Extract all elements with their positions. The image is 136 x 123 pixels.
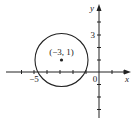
y-tick-label: 3 [91,30,96,40]
y-axis-label: y [89,3,94,13]
center-label: (−3, 1) [49,47,74,57]
origin-label: 0 [93,74,98,84]
center-point [60,58,63,61]
x-axis-label: x [124,74,129,84]
x-tick-label: −5 [29,74,39,84]
coordinate-plane: (−3, 1) −5 3 0 x y [0,0,136,123]
y-axis-arrow-icon [97,4,102,11]
